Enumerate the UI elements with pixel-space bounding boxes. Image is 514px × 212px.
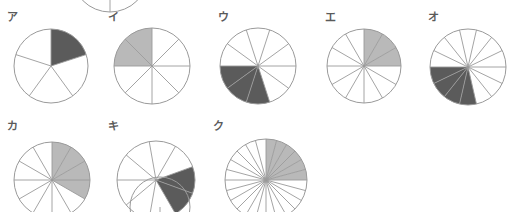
pie-divider	[246, 180, 267, 212]
pie-chart-fig-b	[0, 0, 514, 212]
pie-outline	[130, 177, 190, 212]
figure-label-fig-d: エ	[325, 12, 336, 23]
pie-slice-shaded	[227, 66, 258, 102]
pie-chart-fig-row2-partial-a	[0, 0, 514, 212]
pie-divider	[266, 169, 306, 180]
pie-slice-shaded	[266, 144, 295, 180]
pie-divider	[266, 180, 287, 212]
figure-label-fig-f: カ	[7, 121, 18, 132]
pie-divider	[444, 67, 468, 97]
pie-divider	[346, 34, 365, 66]
pie-slice-shaded	[52, 180, 90, 199]
pie-chart-fig-e	[0, 0, 514, 212]
pie-divider	[468, 30, 476, 67]
pie-slice-shaded	[220, 66, 258, 88]
pie-divider	[266, 144, 287, 180]
figure-label-fig-c: ウ	[218, 12, 229, 23]
pie-divider	[16, 55, 51, 66]
pie-outline	[72, 0, 148, 12]
pie-slice-shaded	[364, 29, 383, 66]
pie-divider	[434, 67, 468, 83]
pie-chart-fig-top-partial	[0, 0, 514, 212]
pie-divider	[364, 66, 383, 98]
pie-slice-shaded	[51, 29, 86, 66]
pie-divider	[246, 66, 258, 102]
pie-divider	[468, 67, 492, 97]
pie-slice-shaded	[125, 28, 152, 66]
pie-divider	[156, 146, 176, 180]
pie-slice-shaded	[266, 169, 307, 180]
pie-divider	[52, 180, 85, 199]
pie-divider	[332, 48, 364, 67]
pie-divider	[52, 161, 85, 180]
figure-label-fig-h: ク	[213, 121, 224, 132]
pie-divider	[227, 44, 258, 66]
pie-divider	[258, 30, 270, 66]
pie-slice-shaded	[114, 39, 152, 66]
pie-divider	[258, 44, 289, 66]
pie-divider	[246, 30, 258, 66]
pie-divider	[364, 34, 383, 66]
pie-slice-shaded	[266, 160, 306, 181]
pie-slice-shaded	[52, 142, 71, 180]
pie-divider	[246, 144, 267, 180]
pie-divider	[227, 66, 258, 88]
pie-divider	[266, 180, 277, 212]
pie-slice-shaded	[434, 67, 468, 97]
pie-divider	[364, 48, 396, 67]
pie-slice-shaded	[266, 151, 302, 180]
pie-outline	[14, 29, 88, 103]
pie-divider	[52, 180, 71, 212]
pie-slice-shaded	[156, 167, 195, 194]
pie-chart-fig-a	[0, 0, 514, 212]
pie-divider	[125, 66, 152, 93]
pie-divider	[460, 30, 468, 67]
pie-outline	[14, 142, 90, 212]
pie-divider	[468, 67, 476, 104]
pie-slice-shaded	[156, 180, 193, 212]
pie-outline	[225, 139, 307, 212]
pie-outline	[114, 28, 190, 104]
pie-divider	[258, 66, 270, 102]
pie-divider	[266, 140, 277, 180]
pie-chart-fig-c	[0, 0, 514, 212]
pie-divider	[51, 55, 86, 66]
pie-divider	[434, 51, 468, 67]
pie-divider	[226, 169, 266, 180]
pie-divider	[156, 180, 176, 212]
figure-label-fig-b: イ	[108, 12, 119, 23]
pie-divider	[33, 147, 52, 180]
pie-divider	[468, 67, 502, 83]
figure-エ: エ	[0, 0, 514, 212]
pie-divider	[332, 66, 364, 85]
pie-divider	[346, 66, 365, 98]
pie-divider	[266, 180, 306, 191]
pie-divider	[230, 160, 266, 181]
pie-divider	[226, 180, 266, 191]
worksheet-canvas: アイウエオカキク	[0, 0, 514, 212]
pie-divider	[33, 180, 52, 212]
pie-divider	[364, 66, 396, 85]
pie-outline	[220, 28, 296, 104]
pie-divider	[152, 39, 179, 66]
pie-divider	[266, 180, 295, 209]
figure-オ: オ	[0, 0, 514, 212]
pie-divider	[152, 66, 179, 93]
figure-fig-top-partial	[0, 0, 514, 212]
pie-divider	[126, 155, 156, 180]
pie-outline	[327, 29, 401, 103]
pie-slice-shaded	[460, 67, 477, 105]
pie-slice-shaded	[52, 161, 90, 180]
pie-divider	[444, 37, 468, 67]
pie-slice-shaded	[364, 34, 396, 66]
pie-divider	[125, 39, 152, 66]
figure-label-fig-g: キ	[108, 121, 119, 132]
figure-label-fig-e: オ	[428, 12, 439, 23]
pie-divider	[230, 180, 266, 201]
figure-キ: キ	[0, 0, 514, 212]
pie-divider	[149, 142, 156, 180]
pie-chart-fig-f	[0, 0, 514, 212]
figure-ク: ク	[0, 0, 514, 212]
pie-divider	[237, 151, 266, 180]
pie-slice-shaded	[444, 67, 468, 104]
